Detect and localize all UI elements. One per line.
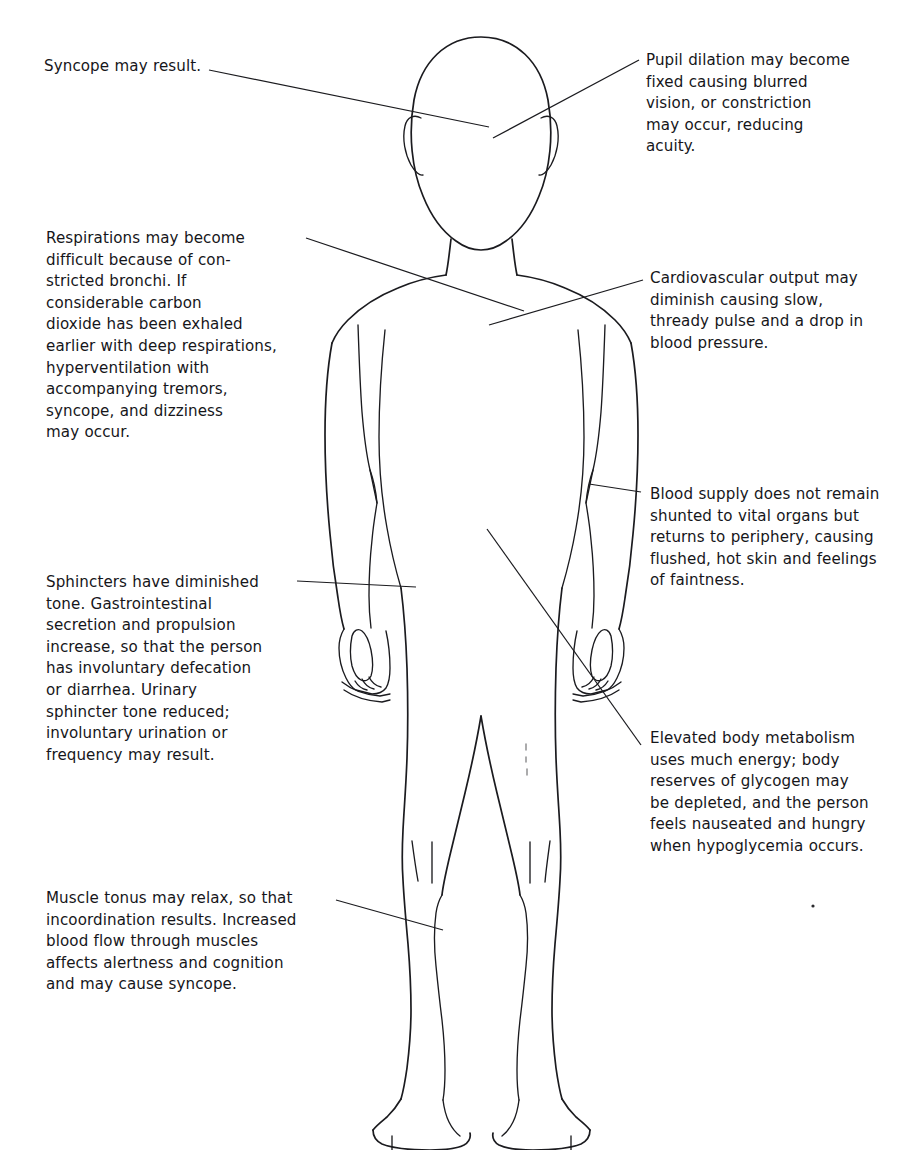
leader-line-syncope xyxy=(209,70,489,127)
hand-left-group xyxy=(339,629,390,702)
hand-left-thumb xyxy=(351,630,373,681)
torso-side-right xyxy=(562,330,584,588)
leader-line-pupil xyxy=(493,60,639,138)
annotation-sphincters: Sphincters have diminished tone. Gastroi… xyxy=(46,572,322,766)
calf-inner-right xyxy=(517,895,528,1100)
ankle-left-inner xyxy=(443,1100,460,1136)
arms-outer-group xyxy=(325,343,638,629)
crotch-inner-left xyxy=(442,716,481,895)
foot-right-outline xyxy=(493,1130,590,1150)
knee-mark-left-outer xyxy=(412,841,418,881)
annotation-cardiovascular-output: Cardiovascular output may diminish causi… xyxy=(650,268,918,354)
neck-right xyxy=(512,239,517,275)
scan-speck-right xyxy=(811,904,814,907)
annotation-muscle-tonus: Muscle tonus may relax, so that incoordi… xyxy=(46,888,356,996)
annotation-blood-supply: Blood supply does not remain shunted to … xyxy=(650,484,918,592)
crotch-inner-right xyxy=(481,716,520,895)
leader-line-blood-supply xyxy=(589,484,641,492)
hand-left-outline xyxy=(339,629,390,694)
annotation-body-metabolism: Elevated body metabolism uses much energ… xyxy=(650,728,918,858)
shoulder-left xyxy=(332,275,446,343)
annotation-respirations: Respirations may become difficult becaus… xyxy=(46,228,318,444)
hand-right-outline xyxy=(573,629,624,694)
head-group xyxy=(404,37,558,250)
shoulder-right xyxy=(517,275,631,343)
leg-outer-left xyxy=(401,588,411,1099)
arm-outer-left xyxy=(325,343,344,629)
leader-line-metabolism xyxy=(487,529,641,745)
hand-right-thumb xyxy=(591,630,613,681)
torso-group xyxy=(379,330,584,588)
arms-inner-group xyxy=(358,325,605,628)
legs-group xyxy=(401,588,562,1100)
arm-inner-right xyxy=(586,325,605,628)
torso-side-left xyxy=(379,330,401,588)
knee-mark-right-outer xyxy=(545,841,550,882)
arm-inner-left xyxy=(358,325,377,628)
ankle-right-outer xyxy=(562,1099,590,1130)
annotation-syncope: Syncope may result. xyxy=(44,56,304,78)
annotation-pupil-dilation: Pupil dilation may become fixed causing … xyxy=(646,50,914,158)
neck-left xyxy=(446,239,451,275)
leader-line-cardiovascular xyxy=(489,280,643,325)
head-outline xyxy=(411,37,551,250)
calf-inner-left xyxy=(435,895,446,1100)
neck-shoulders-group xyxy=(332,239,631,343)
ankle-left-outer xyxy=(373,1099,401,1130)
hand-right-group xyxy=(573,629,624,702)
leg-outer-right xyxy=(552,588,562,1099)
ankle-right-inner xyxy=(502,1100,519,1136)
leader-lines-group xyxy=(209,60,643,930)
arm-outer-right xyxy=(619,343,638,629)
feet-group xyxy=(373,1099,590,1150)
